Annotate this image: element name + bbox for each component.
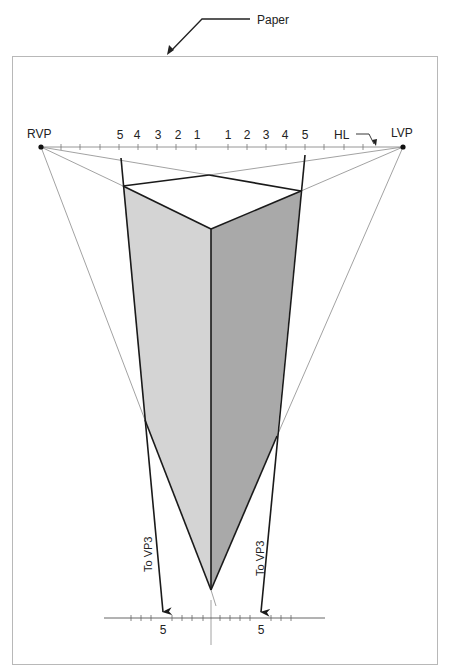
ground-left-mark: 5 bbox=[160, 623, 167, 637]
ground-right-mark: 5 bbox=[258, 623, 265, 637]
left-scale-labels: 5 4 3 2 1 bbox=[117, 128, 201, 142]
to-vp3-right-label: To VP3 bbox=[254, 541, 266, 576]
svg-text:4: 4 bbox=[134, 128, 141, 142]
paper-callout: Paper bbox=[167, 13, 289, 55]
to-vp3-left-label: To VP3 bbox=[142, 537, 154, 572]
lvp-label: LVP bbox=[391, 126, 413, 140]
right-scale-labels: 1 2 3 4 5 bbox=[225, 128, 309, 142]
svg-text:4: 4 bbox=[282, 128, 289, 142]
horizon-line: RVP LVP 5 4 3 2 1 1 2 3 4 5 HL bbox=[27, 126, 413, 150]
svg-text:3: 3 bbox=[263, 128, 270, 142]
svg-text:2: 2 bbox=[244, 128, 251, 142]
left-face bbox=[123, 186, 211, 590]
svg-text:3: 3 bbox=[155, 128, 162, 142]
paper-label: Paper bbox=[257, 13, 289, 27]
lvp-point bbox=[400, 144, 405, 149]
ground-scale: 5 5 bbox=[104, 615, 325, 637]
svg-text:5: 5 bbox=[302, 128, 309, 142]
rvp-point bbox=[38, 144, 43, 149]
svg-text:2: 2 bbox=[175, 128, 182, 142]
paper-arrow-icon bbox=[167, 45, 174, 55]
hl-leader-line bbox=[356, 134, 374, 144]
hl-label: HL bbox=[334, 128, 350, 142]
svg-text:1: 1 bbox=[194, 128, 201, 142]
svg-text:1: 1 bbox=[225, 128, 232, 142]
right-face bbox=[211, 191, 301, 590]
svg-text:5: 5 bbox=[117, 128, 124, 142]
perspective-diagram: Paper bbox=[0, 0, 457, 672]
rvp-label: RVP bbox=[27, 127, 51, 141]
paper-leader-line bbox=[171, 19, 250, 51]
